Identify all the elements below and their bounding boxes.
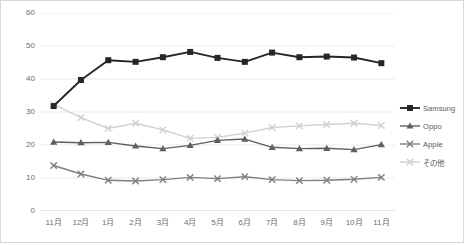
y-axis-tick-label: 40 — [1, 75, 35, 83]
legend-item-Apple[interactable]: Apple — [399, 135, 463, 153]
legend-label: Samsung — [421, 104, 455, 113]
x-axis-tick-label: 2月 — [122, 215, 149, 231]
legend-marker-icon — [399, 139, 421, 149]
y-axis-tick-label: 50 — [1, 42, 35, 50]
x-axis-tick-label: 12月 — [67, 215, 94, 231]
data-point-marker — [269, 50, 275, 56]
data-point-marker — [160, 54, 166, 60]
data-point-marker — [296, 54, 302, 60]
chart-container: 0102030405060 11月12月1月2月3月4月5月6月7月8月9月10… — [0, 0, 464, 243]
legend-item-その他[interactable]: その他 — [399, 153, 463, 171]
data-point-marker — [215, 55, 221, 61]
y-axis-tick-label: 20 — [1, 141, 35, 149]
data-point-marker — [105, 57, 111, 63]
data-point-marker — [378, 60, 384, 66]
x-axis-tick-label: 11月 — [40, 215, 67, 231]
legend-item-Samsung[interactable]: Samsung — [399, 99, 463, 117]
y-axis-tick-label: 30 — [1, 108, 35, 116]
series-その他 — [50, 101, 384, 141]
legend-label: その他 — [421, 157, 444, 168]
plot-area — [40, 13, 395, 211]
x-axis-tick-label: 11月 — [368, 215, 395, 231]
data-point-marker — [187, 49, 193, 55]
data-point-marker — [324, 54, 330, 60]
x-axis-tick-label: 1月 — [95, 215, 122, 231]
data-point-marker — [78, 114, 84, 120]
series-Oppo — [50, 135, 385, 152]
y-axis-tick-label: 0 — [1, 207, 35, 215]
legend-marker-icon — [399, 121, 421, 131]
y-axis-tick-label: 10 — [1, 174, 35, 182]
x-axis-tick-label: 5月 — [204, 215, 231, 231]
legend-marker-icon — [399, 157, 421, 167]
x-axis-tick-label: 6月 — [231, 215, 258, 231]
legend-item-Oppo[interactable]: Oppo — [399, 117, 463, 135]
x-axis-tick-label: 7月 — [259, 215, 286, 231]
data-point-marker — [78, 77, 84, 83]
data-point-marker — [133, 59, 139, 65]
x-axis-tick-label: 4月 — [177, 215, 204, 231]
x-axis-tick-label: 9月 — [313, 215, 340, 231]
y-axis: 0102030405060 — [1, 13, 35, 211]
data-point-marker — [51, 103, 57, 109]
x-axis-tick-label: 8月 — [286, 215, 313, 231]
data-point-marker — [242, 59, 248, 65]
x-axis-tick-label: 10月 — [340, 215, 367, 231]
legend-label: Apple — [421, 140, 443, 149]
x-axis-tick-label: 3月 — [149, 215, 176, 231]
legend-marker-icon — [399, 103, 421, 113]
y-axis-tick-label: 60 — [1, 9, 35, 17]
x-axis: 11月12月1月2月3月4月5月6月7月8月9月10月11月 — [40, 215, 395, 231]
legend-label: Oppo — [421, 122, 442, 131]
series-Apple — [50, 162, 384, 184]
data-point-marker — [351, 55, 357, 61]
line-chart-svg — [40, 13, 395, 211]
data-point-marker — [407, 105, 413, 111]
data-point-marker — [378, 141, 385, 147]
series-line — [54, 104, 382, 138]
chart-legend: SamsungOppoAppleその他 — [399, 99, 463, 171]
